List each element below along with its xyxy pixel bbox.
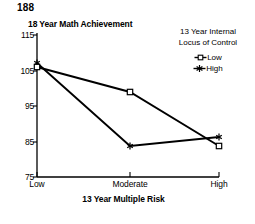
xtick-label-moderate: Moderate <box>100 179 160 189</box>
x-axis-ticks <box>37 172 219 177</box>
plot-area <box>0 0 255 224</box>
x-axis-title: 13 Year Multiple Risk <box>0 194 247 205</box>
figure: 188 18 Year Math Achievement 13 Year Int… <box>0 0 255 224</box>
series-low <box>34 64 221 148</box>
xtick-label-low: Low <box>17 179 57 189</box>
series-low-markers <box>34 64 221 148</box>
xtick-label-high: High <box>199 179 239 189</box>
